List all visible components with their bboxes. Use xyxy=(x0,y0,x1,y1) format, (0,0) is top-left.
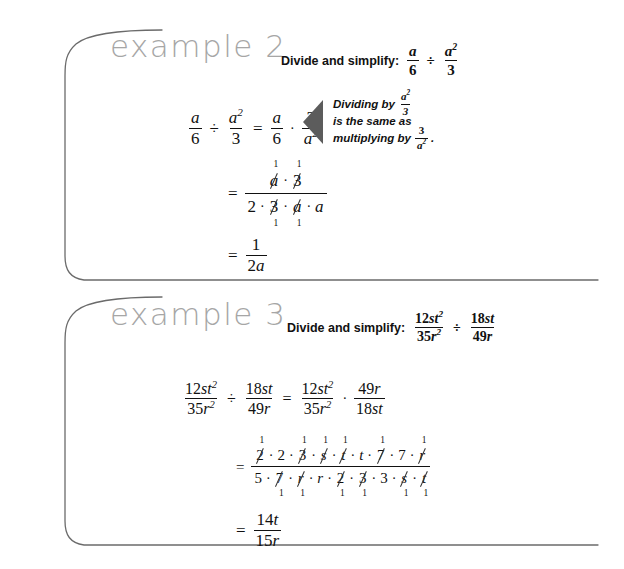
e3s2-d-dot-7: · xyxy=(412,471,417,487)
cancel-mark: 1 xyxy=(423,489,428,499)
cancel-mark: 1 xyxy=(362,489,367,499)
e3s1-t3-num: 12st2 xyxy=(299,380,335,398)
e3s1-t2-num: 18st xyxy=(244,380,275,398)
e2s2-n-a: a xyxy=(270,171,279,190)
cancel-mark: 1 xyxy=(343,436,348,446)
example-3-prompt: Divide and simplify: 12st2 35r2 ÷ 18st 4… xyxy=(287,311,499,344)
e2s1-t2-num: a2 xyxy=(227,109,245,128)
e3s1-t2-den: 49r xyxy=(246,398,272,417)
cancel-mark: 1 xyxy=(302,436,307,446)
prompt3-left-num: 12st2 xyxy=(413,311,445,327)
cancel-mark: 1 xyxy=(260,436,265,446)
cancel-mark: 1 xyxy=(279,489,284,499)
e3s2-d-dot-5: · xyxy=(372,471,377,487)
e3s3-equals: = xyxy=(236,521,246,541)
e2s1-t3-num: a xyxy=(271,109,284,128)
e3s1-op-divide: ÷ xyxy=(227,390,236,408)
e2s1-op-equals: = xyxy=(253,119,263,139)
callout-l1-num: a2 xyxy=(399,91,412,104)
example-3-prompt-expression: 12st2 35r2 ÷ 18st 49r xyxy=(410,311,499,344)
e3s1-t3-den: 35r2 xyxy=(302,398,334,417)
e3s1-t1-num: 12st2 xyxy=(183,380,219,398)
e2s2-d-2: 2 xyxy=(248,197,257,217)
e2s2-d-dot-2: · xyxy=(283,199,288,215)
callout-l3-num: 3 xyxy=(417,125,427,138)
cancel-mark: 1 xyxy=(297,160,302,170)
cancel-mark: 1 xyxy=(297,219,302,229)
example-2-heading: example 2 xyxy=(110,28,287,64)
e3s2-numerator: 21 · 2 · 31 · s1 · t1 · t · 71 · 7 · r1 xyxy=(252,447,429,466)
prompt3-right-den: 49r xyxy=(471,327,494,344)
example-3-step-2-factor-and-cancel: = 21 · 2 · 31 · s1 · t1 · t · 71 · 7 · r… xyxy=(236,447,432,487)
example-2-callout-text: Dividing by a2 3 is the same as multiply… xyxy=(333,96,434,147)
e2s3-den: 2a xyxy=(246,255,267,275)
e3s2-n-10: t xyxy=(359,447,363,464)
cancel-mark: 1 xyxy=(422,436,427,446)
prompt2-left-den: 6 xyxy=(407,60,419,78)
e3s3-den: 15r xyxy=(254,530,282,550)
e3s2-n-dot-7: · xyxy=(410,448,415,464)
e3s2-n-2: 2 xyxy=(277,447,285,464)
e2s2-d-dot-3: · xyxy=(306,199,311,215)
e2s1-t3-den: 6 xyxy=(271,128,284,148)
e2s2-d-3: 3 xyxy=(270,197,279,216)
cancel-mark: 1 xyxy=(404,489,409,499)
callout-line-3: multiplying by 3 a2 . xyxy=(333,130,434,147)
e2s2-n-dot-1: · xyxy=(283,173,288,189)
e2s1-t1-num: a xyxy=(189,109,202,128)
prompt2-right-den: 3 xyxy=(445,60,457,78)
example-3-prompt-label: Divide and simplify: xyxy=(287,321,405,335)
e3s2-n-8: t xyxy=(341,447,345,463)
cancel-mark: 1 xyxy=(274,160,279,170)
cancel-mark: 1 xyxy=(274,219,279,229)
e3s2-n-dot-5: · xyxy=(367,448,372,464)
e3s2-n-dot-2: · xyxy=(311,448,316,464)
worksheet-page: example 2 Divide and simplify: a 6 ÷ a2 … xyxy=(0,0,624,569)
cancel-mark: 1 xyxy=(340,489,345,499)
e3s2-n-0: 2 xyxy=(256,447,264,463)
callout-line-3-prefix: multiplying by xyxy=(333,130,411,147)
prompt2-operator: ÷ xyxy=(427,52,435,69)
e3s2-n-dot-1: · xyxy=(289,448,294,464)
callout-l3-den: a2 xyxy=(415,138,428,152)
prompt3-right-num: 18st xyxy=(469,311,496,327)
e2s2-d-a1: a xyxy=(293,197,302,216)
e3s2-d-4: r xyxy=(298,470,304,486)
e3s3-num: 14t xyxy=(255,511,281,530)
e2s3-num: 1 xyxy=(250,236,263,255)
e2s2-d-dot-1: · xyxy=(260,199,265,215)
e3s2-n-4: 3 xyxy=(299,447,307,463)
e3s2-d-14: s xyxy=(401,470,407,486)
example-3-step-1-rewrite: 12st2 35r2 ÷ 18st 49r = 12st2 35r2 · 49r… xyxy=(180,380,388,418)
cancel-mark: 1 xyxy=(380,436,385,446)
e2s1-op-times: · xyxy=(290,121,295,137)
e3s2-n-14: 7 xyxy=(398,447,406,464)
e3s2-n-12: 7 xyxy=(377,447,385,463)
e2s1-t1-den: 6 xyxy=(189,128,202,148)
cancel-mark: 1 xyxy=(300,489,305,499)
example-2-prompt: Divide and simplify: a 6 ÷ a2 3 xyxy=(281,43,462,78)
e3s2-d-10: 3 xyxy=(359,470,367,486)
e3s2-d-dot-4: · xyxy=(349,471,354,487)
example-2-step-3-answer: = 1 2a xyxy=(228,236,270,276)
prompt2-right-num: a2 xyxy=(443,43,459,60)
e3s2-d-dot-0: · xyxy=(266,471,271,487)
e3s2-d-dot-6: · xyxy=(392,471,397,487)
e3s2-d-dot-2: · xyxy=(309,471,314,487)
example-2-callout: Dividing by a2 3 is the same as multiply… xyxy=(303,96,434,147)
e3s2-equals: = xyxy=(236,459,244,476)
e3s2-denominator: 5 · 71 · r1 · r · 21 · 31 · 3 · s1 · t1 xyxy=(251,466,430,487)
e2s2-n-3: 3 xyxy=(293,171,302,190)
e3s2-d-6: r xyxy=(317,470,323,487)
example-3-heading: example 3 xyxy=(110,296,287,332)
e2s3-equals: = xyxy=(228,246,238,266)
e2s2-numerator: a1 · 31 xyxy=(266,171,306,193)
e2s2-d-a2: a xyxy=(315,197,324,217)
example-2-step-2-factor-and-cancel: = a1 · 31 2 · 31 · a1 · a xyxy=(228,171,329,217)
e2s2-equals: = xyxy=(228,184,238,204)
e3s2-d-8: 2 xyxy=(337,470,345,486)
e3s2-d-dot-3: · xyxy=(327,471,332,487)
e2s2-denominator: 2 · 31 · a1 · a xyxy=(245,193,327,217)
callout-line-1-prefix: Dividing by xyxy=(333,96,395,113)
e3s2-n-dot-6: · xyxy=(390,448,395,464)
